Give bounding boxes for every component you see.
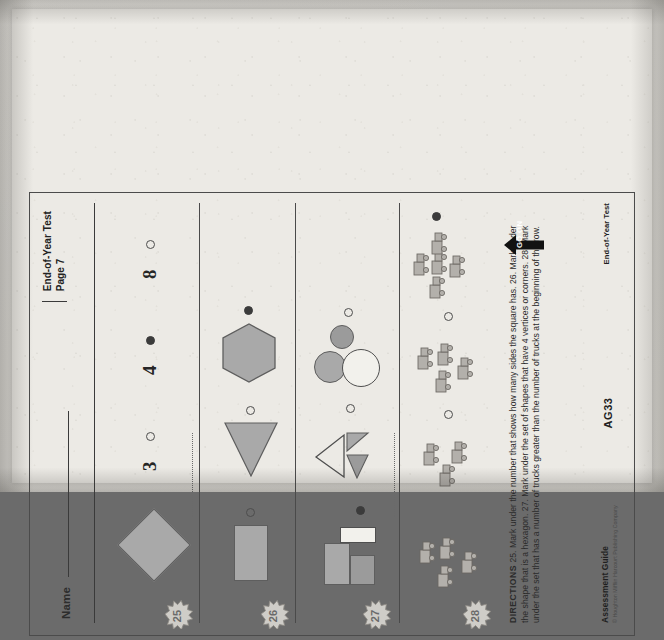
question-25-stem [104,495,199,593]
question-row-27: 27 [296,203,400,623]
worksheet-footer: Assessment Guide © Houghton Mifflin Harc… [600,203,634,623]
footer-title: Assessment Guide [600,505,610,623]
question-25-option-a[interactable]: 3 [104,395,199,487]
question-28-option-a[interactable] [400,399,496,491]
question-26-option-c[interactable] [200,291,295,391]
go-on-label: GO ON [515,221,524,248]
question-number-badge-25: 25 [164,603,190,629]
question-27-option-a[interactable] [296,495,399,593]
question-27-option-c[interactable] [296,291,399,391]
question-number-text-26: 26 [267,610,279,622]
question-28-option-c[interactable] [400,203,496,301]
go-on-arrow-icon [504,235,544,255]
answer-bubble-a[interactable] [356,506,365,515]
answer-bubble-b[interactable] [346,404,355,413]
answer-bubble-c[interactable] [146,240,155,249]
hexagon-shape [220,321,278,385]
question-row-25: 25 3 4 8 [104,203,200,623]
worksheet-header: Name End-of-Year Test Page 7 [38,203,100,623]
circle-shape-open [342,349,380,387]
row-25-dotted-separator [192,433,193,517]
option-numeral-b: 4 [139,366,161,376]
answer-bubble-c[interactable] [244,306,253,315]
triangle-set-shape [312,415,374,483]
answer-bubble-b[interactable] [246,406,255,415]
worksheet-rotated-stage: Name End-of-Year Test Page 7 25 [12,175,652,640]
question-28-option-b[interactable] [400,303,496,395]
worksheet-page: Name End-of-Year Test Page 7 25 [12,175,652,640]
name-field[interactable]: Name [56,409,74,619]
rectangle-shape-small [350,555,375,585]
footer-left-block: Assessment Guide © Houghton Mifflin Harc… [600,505,618,623]
answer-bubble-b[interactable] [444,312,453,321]
question-28-stem [400,497,496,597]
option-numeral-a: 3 [139,462,161,472]
directions-block: DIRECTIONS 25. Mark under the number tha… [508,203,543,623]
page-code: AG33 [602,397,614,428]
answer-bubble-a[interactable] [246,508,255,517]
name-field-label: Name [60,587,72,619]
go-on-marker: GO ON [504,197,544,261]
truck-group-b [414,327,480,393]
question-row-28: 28 [400,203,496,623]
page-number-label: Page 7 [55,211,68,291]
question-number-badge-27: 27 [362,603,388,629]
directions-text: DIRECTIONS 25. Mark under the number tha… [508,211,543,623]
header-divider [94,203,95,623]
name-field-rule [68,411,69,577]
question-26-option-a[interactable] [200,495,295,593]
answer-bubble-b[interactable] [146,336,155,345]
rectangle-shape [234,525,268,581]
answer-bubble-a[interactable] [146,432,155,441]
truck-group-stem [416,515,488,589]
rectangle-shape-large [324,543,350,585]
question-rows: 25 3 4 8 [104,203,496,623]
test-name-label: End-of-Year Test [42,211,55,291]
question-number-badge-26: 26 [260,603,286,629]
truck-group-a [420,427,478,487]
question-27-option-b[interactable] [296,395,399,487]
question-25-option-b[interactable]: 4 [104,299,199,391]
test-identifier-block: End-of-Year Test Page 7 [42,211,67,302]
question-26-option-b[interactable] [200,395,295,487]
footer-test-name: End-of-Year Test [602,203,611,264]
question-number-text-25: 25 [171,610,183,622]
square-rotated-shape [117,508,191,582]
directions-heading: DIRECTIONS [508,565,518,623]
question-25-option-c[interactable]: 8 [104,203,199,295]
option-numeral-c: 8 [139,270,161,280]
rectangle-shape-open [340,527,376,543]
triangle-shape [222,417,280,479]
answer-bubble-a[interactable] [444,410,453,419]
directions-body: 25. Mark under the number that shows how… [508,226,541,624]
answer-bubble-c[interactable] [344,308,353,317]
question-row-26: 26 [200,203,296,623]
question-number-text-28: 28 [469,610,481,622]
question-number-badge-28: 28 [462,603,488,629]
answer-bubble-c[interactable] [432,212,441,221]
row-28-dotted-separator [394,433,395,517]
question-number-text-27: 27 [369,610,381,622]
footer-copyright: © Houghton Mifflin Harcourt Publishing C… [612,505,618,623]
circle-shape-small [330,325,354,349]
truck-group-c [412,227,484,299]
